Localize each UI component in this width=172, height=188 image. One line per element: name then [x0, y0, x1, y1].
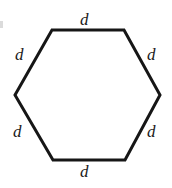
hexagon-figure: d d d d d d: [0, 0, 172, 188]
side-label-top: d: [80, 11, 89, 28]
side-label-bottom: d: [80, 163, 89, 180]
side-label-upper-left: d: [15, 46, 24, 63]
scan-artifact: [0, 21, 3, 28]
side-label-lower-left: d: [13, 123, 22, 140]
hexagon-outline: [15, 30, 160, 160]
side-label-lower-right: d: [147, 123, 156, 140]
side-label-upper-right: d: [147, 46, 156, 63]
